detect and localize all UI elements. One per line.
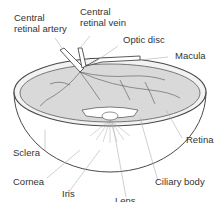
label-macula: Macula	[175, 50, 206, 61]
label-iris: Iris	[62, 188, 75, 199]
label-sclera: Sclera	[13, 147, 40, 158]
eye-anatomy-diagram: Central retinal artery Central retinal v…	[0, 0, 221, 202]
label-central-retinal-vein: Central retinal vein	[80, 6, 126, 28]
label-lens: Lens	[115, 195, 136, 202]
label-retina: Retina	[186, 134, 213, 145]
label-cornea: Cornea	[13, 176, 44, 187]
label-ciliary-body: Ciliary body	[155, 176, 205, 187]
label-optic-disc: Optic disc	[123, 34, 165, 45]
label-central-retinal-artery: Central retinal artery	[14, 12, 67, 34]
